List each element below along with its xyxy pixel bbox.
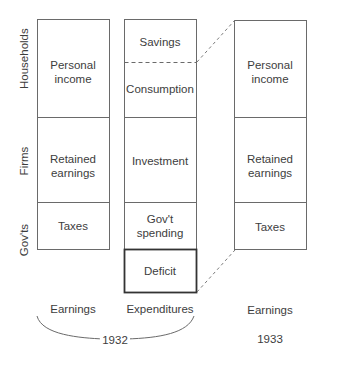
govt-spending-label: Gov't spending xyxy=(130,212,190,240)
households-label: Households xyxy=(18,29,30,89)
earnings-caption-1932: Earnings xyxy=(40,302,106,316)
year-1933: 1933 xyxy=(250,332,290,346)
year-1932: 1932 xyxy=(100,333,130,347)
earnings-caption-1933: Earnings xyxy=(237,303,303,317)
earnings-1933-box xyxy=(235,21,307,250)
personal-income-1933: Personal income xyxy=(241,58,299,86)
expenditures-caption: Expenditures xyxy=(118,302,202,316)
investment-label: Investment xyxy=(124,154,196,168)
personal-income-1932: Personal income xyxy=(44,58,102,86)
savings-label: Savings xyxy=(124,35,196,49)
govts-label: Gov'ts xyxy=(18,220,30,260)
consumption-label: Consumption xyxy=(124,82,196,96)
connector-top xyxy=(197,20,235,62)
deficit-label: Deficit xyxy=(124,264,196,278)
retained-earnings-1933: Retained earnings xyxy=(241,152,299,180)
taxes-1932: Taxes xyxy=(40,219,106,233)
earnings-1932-box xyxy=(38,20,110,250)
brace-right xyxy=(126,316,194,339)
retained-earnings-1932: Retained earnings xyxy=(44,152,102,180)
connector-bottom xyxy=(197,250,235,292)
firms-label: Firms xyxy=(18,141,30,181)
taxes-1933: Taxes xyxy=(237,220,303,234)
brace-left xyxy=(37,316,104,339)
